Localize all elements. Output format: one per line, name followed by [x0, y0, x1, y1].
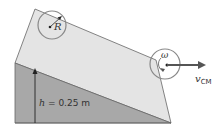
ramp-diagram: R ω vCM h = 0.25 m: [0, 0, 224, 134]
velocity-label: vCM: [195, 73, 212, 86]
radius-label: R: [53, 21, 62, 32]
velocity-arrow: [167, 61, 206, 69]
height-label: h = 0.25 m: [39, 97, 90, 108]
omega-label: ω: [161, 50, 169, 60]
